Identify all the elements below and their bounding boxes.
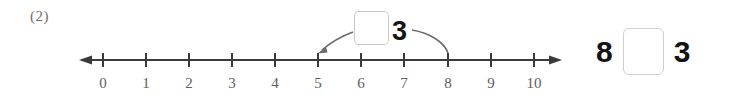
tick-label-6: 6 (357, 75, 365, 91)
callout-answer-box[interactable] (354, 11, 389, 45)
callout-digit: 3 (392, 18, 407, 45)
axis-left-arrowhead (79, 56, 92, 65)
tick-label-2: 2 (185, 75, 193, 91)
equation-answer-box[interactable] (623, 28, 664, 75)
tick-label-7: 7 (400, 75, 408, 91)
tick-label-10: 10 (527, 75, 542, 91)
tick-label-8: 8 (444, 75, 452, 91)
worksheet-problem-row: (2) 0 1 2 3 4 5 6 7 8 (0, 0, 735, 101)
tick-label-5: 5 (314, 75, 322, 91)
tick-label-0: 0 (99, 75, 107, 91)
tick-label-1: 1 (142, 75, 150, 91)
equation-right-term: 3 (674, 37, 691, 67)
equation: 8 3 (596, 28, 690, 75)
tick-label-9: 9 (487, 75, 495, 91)
axis-right-arrowhead (549, 56, 562, 65)
equation-left-term: 8 (596, 37, 613, 67)
arrow-to-5-icon (322, 32, 353, 50)
numberline-callout: 3 (354, 11, 407, 45)
arrow-to-8-icon (412, 30, 448, 53)
tick-label-4: 4 (271, 75, 279, 91)
arrow-to-5-head (318, 47, 328, 54)
tick-label-3: 3 (228, 75, 236, 91)
